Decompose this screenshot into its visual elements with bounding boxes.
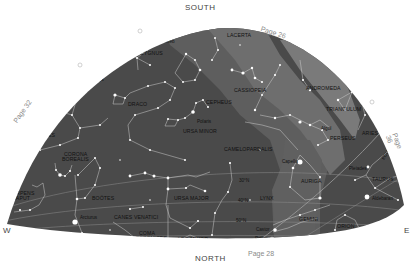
label-canes-venatici: CANES VENATICI — [114, 214, 158, 220]
label-lacerta: LACERTA — [227, 32, 252, 38]
label-caput: CAPUT — [12, 195, 31, 201]
label-aries: ARIES — [362, 130, 379, 136]
label-andromeda: ANDROMEDA — [306, 85, 341, 91]
label-castor: Castor — [256, 227, 270, 232]
dec-label-60: 60°N — [227, 239, 237, 244]
dec-label-50: 50°N — [236, 218, 246, 223]
label-cepheus: CEPHEUS — [206, 99, 232, 105]
label-capella: Capella — [282, 159, 298, 164]
page-ref-bottom[interactable]: Page 28 — [248, 250, 274, 257]
label-auriga: AURIGA — [301, 178, 322, 184]
label-perseus: PERSEUS — [330, 135, 356, 141]
label-arcturus: Arcturus — [80, 215, 98, 220]
label-pleiades: Pleiades — [349, 166, 367, 171]
label-deneb: Deneb — [161, 39, 175, 44]
label-triangulum: TRIANGULUM — [326, 106, 361, 112]
label-leo-minor: LEO MINOR — [178, 236, 208, 242]
label-gemini: GEMINI — [299, 216, 318, 222]
dec-label-30: 30°N — [239, 178, 249, 183]
label-aldebaran: Aldebaran — [372, 196, 393, 201]
label-lyra: LYRA — [96, 59, 110, 65]
label-berenices: BERENICES — [136, 235, 167, 241]
label-polaris: Polaris — [197, 119, 212, 124]
label-borealis: BOREALIS — [62, 156, 89, 162]
label-draco: DRACO — [128, 101, 147, 107]
label-ursa-major: URSA MAJOR — [174, 195, 209, 201]
label-camelopardalis: CAMELOPARDALIS — [224, 146, 273, 152]
label-taurus: TAURUS — [372, 176, 394, 182]
label-cassiopeia: CASSIOPEIA — [234, 87, 267, 93]
label-bootes: BOÖTES — [92, 195, 115, 201]
label-algol: Algol — [321, 126, 331, 131]
label-lynx: LYNX — [260, 195, 274, 201]
label-ursa-minor: URSA MINOR — [183, 128, 217, 134]
label-orion: ORION — [337, 223, 355, 229]
label-hercules: HERCULES — [26, 132, 55, 138]
label-vega: Vega — [93, 77, 104, 82]
label-pollux: Pollux — [255, 236, 268, 241]
dec-label-40: 40°N — [238, 198, 248, 203]
star-chart: LYRA CYGNUS LACERTA DRACO CEPHEUS CASSIO… — [0, 0, 414, 266]
label-cygnus: CYGNUS — [140, 50, 163, 56]
